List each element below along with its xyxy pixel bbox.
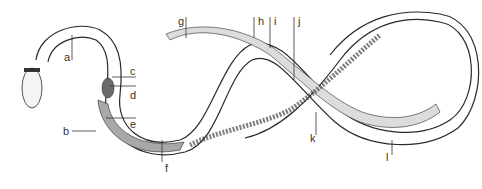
label-c: c: [130, 66, 136, 77]
label-k: k: [310, 133, 316, 144]
snake-tail: [190, 35, 380, 145]
label-j: j: [298, 16, 300, 27]
label-b: b: [63, 126, 69, 137]
label-i: i: [274, 16, 276, 27]
snake-head: [22, 68, 42, 108]
label-f: f: [165, 163, 168, 174]
label-d: d: [130, 90, 136, 101]
snake-anatomy-diagram: [0, 0, 482, 189]
label-h: h: [258, 16, 264, 27]
label-a: a: [64, 52, 70, 63]
gut-lower-segment: [98, 100, 184, 152]
label-e: e: [130, 119, 136, 130]
label-l: l: [386, 152, 388, 163]
label-g: g: [178, 16, 184, 27]
heart-organ: [102, 78, 114, 98]
head-bands: [24, 68, 40, 72]
intestine-organ: [166, 27, 440, 128]
